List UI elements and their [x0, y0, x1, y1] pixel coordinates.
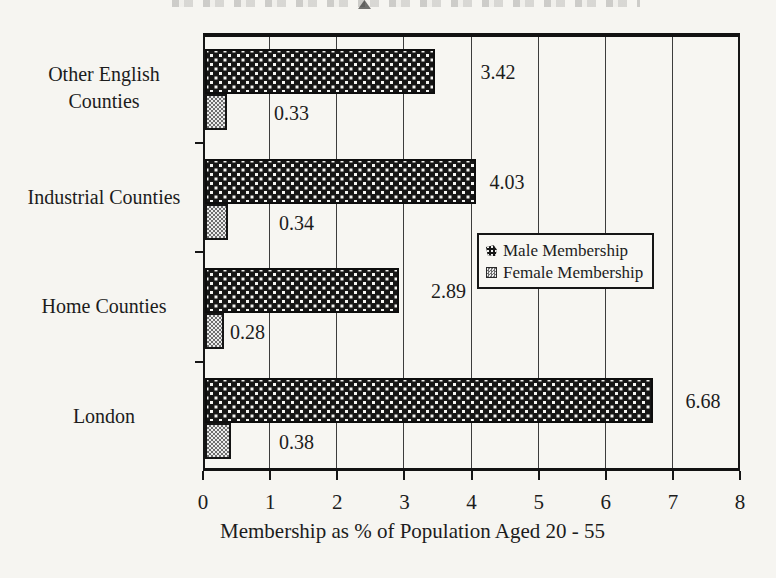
x-axis-tick: [672, 471, 674, 480]
male-bar: [205, 378, 653, 423]
male-series-swatch-icon: [486, 245, 497, 256]
female-bar: [205, 204, 228, 240]
male-value-label: 2.89: [431, 281, 466, 301]
category-label: London: [18, 362, 190, 472]
female-value-label: 0.34: [279, 213, 314, 233]
female-value-label: 0.33: [274, 103, 309, 123]
legend-entry-female: Female Membership: [486, 264, 645, 281]
category-label: Other English Counties: [18, 33, 190, 143]
male-value-label: 6.68: [685, 391, 720, 411]
y-axis-tick: [195, 361, 203, 363]
x-axis-tick-label: 5: [533, 492, 544, 513]
x-axis-tick: [739, 471, 741, 480]
male-bar: [205, 159, 476, 204]
x-axis-tick: [202, 471, 204, 480]
category-label: Industrial Counties: [18, 143, 190, 253]
legend-label-male: Male Membership: [503, 242, 628, 259]
x-axis-tick-label: 7: [668, 492, 679, 513]
plot-area: 3.420.334.030.342.890.286.680.38: [203, 33, 740, 471]
y-axis-tick: [195, 251, 203, 253]
x-axis-tick: [403, 471, 405, 480]
female-bar: [205, 313, 224, 349]
x-axis-tick-label: 4: [466, 492, 477, 513]
female-value-label: 0.28: [230, 322, 265, 342]
x-axis-tick-label: 6: [601, 492, 612, 513]
category-axis-labels: Other English CountiesIndustrial Countie…: [18, 33, 190, 471]
male-bar: [205, 268, 399, 313]
male-value-label: 3.42: [481, 62, 516, 82]
female-bar: [205, 94, 227, 130]
male-value-label: 4.03: [490, 172, 525, 192]
legend-entry-male: Male Membership: [486, 242, 645, 259]
x-axis-tick-label: 1: [265, 492, 276, 513]
x-axis-tick-label: 3: [399, 492, 410, 513]
x-axis-tick-label: 8: [735, 492, 746, 513]
vertical-gridline: [672, 37, 673, 468]
category-label: Home Counties: [18, 252, 190, 362]
cropped-title-fragment: [172, 0, 640, 7]
x-axis-tick: [269, 471, 271, 480]
male-bar: [205, 49, 435, 94]
y-axis-tick: [195, 142, 203, 144]
x-axis-tick: [471, 471, 473, 480]
x-axis-tick-label: 2: [332, 492, 343, 513]
x-axis-title: Membership as % of Population Aged 20 - …: [155, 521, 670, 542]
x-axis-tick: [538, 471, 540, 480]
legend-label-female: Female Membership: [503, 264, 643, 281]
legend-box: Male Membership Female Membership: [477, 233, 654, 289]
female-value-label: 0.38: [279, 432, 314, 452]
female-series-swatch-icon: [486, 267, 497, 278]
x-axis-tick: [605, 471, 607, 480]
scanned-bar-chart-figure: Other English CountiesIndustrial Countie…: [0, 0, 776, 578]
female-bar: [205, 423, 231, 459]
x-axis-tick: [336, 471, 338, 480]
x-axis-tick-label: 0: [198, 492, 209, 513]
